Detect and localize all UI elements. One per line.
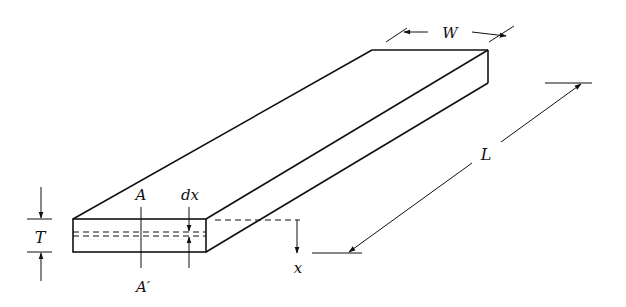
label-l: L	[480, 145, 492, 164]
label-x: x	[294, 259, 303, 277]
depth-dimension	[215, 220, 300, 253]
bar-diagram: W L T A A′ dx x	[0, 0, 626, 307]
bar-top-left-edge	[73, 50, 372, 219]
length-dimension	[312, 83, 592, 253]
label-a: A	[134, 186, 147, 204]
label-w: W	[442, 24, 459, 42]
element-slice	[73, 232, 206, 236]
label-a-prime: A′	[134, 278, 151, 296]
label-dx: dx	[181, 186, 200, 204]
label-t: T	[35, 228, 47, 247]
bar-outline	[73, 50, 488, 252]
bar-top-right-edge	[206, 50, 488, 219]
bar-bottom-right-edge	[206, 83, 488, 252]
